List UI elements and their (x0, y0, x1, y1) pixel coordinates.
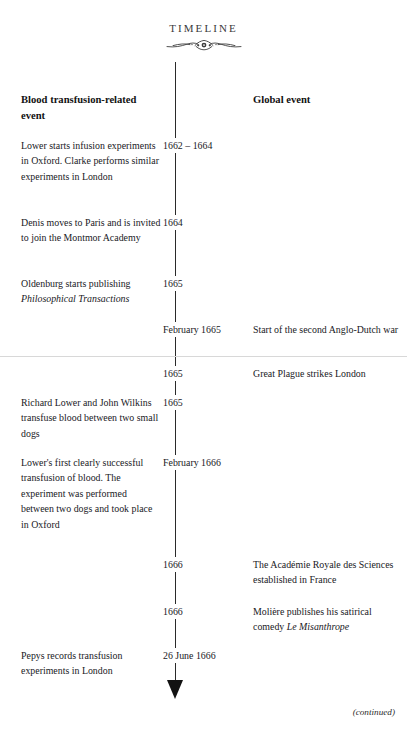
page-header: TIMELINE (0, 22, 407, 52)
timeline-date: February 1666 (163, 455, 251, 470)
flourish-ornament (0, 38, 407, 52)
timeline-date: 26 June 1666 (163, 648, 251, 663)
timeline-date: 1665 (163, 395, 251, 410)
timeline-arrow-icon (167, 680, 183, 699)
timeline-date: 1665 (163, 366, 251, 381)
timeline-event-right: Molière publishes his satirical comedy L… (253, 604, 403, 635)
timeline-event-right: Great Plague strikes London (253, 366, 403, 381)
timeline-event-left: Lower's first clearly successful transfu… (21, 455, 161, 532)
timeline-event-left: Denis moves to Paris and is invited to j… (21, 215, 161, 246)
column-header-global-event: Global event (253, 92, 398, 108)
timeline-event-left: Oldenburg starts publishing Philosophica… (21, 276, 161, 307)
timeline-event-left: Richard Lower and John Wilkins transfuse… (21, 395, 161, 441)
column-header-blood-transfusion: Blood transfusion-related event (21, 92, 161, 123)
timeline-date: 1664 (163, 215, 251, 230)
timeline-date: 1662 – 1664 (163, 138, 251, 153)
timeline-event-left: Pepys records transfusion experiments in… (21, 648, 161, 679)
section-divider (0, 356, 407, 357)
timeline-event-left: Lower starts infusion experiments in Oxf… (21, 138, 161, 184)
timeline-date: 1666 (163, 557, 251, 572)
timeline-date: 1666 (163, 604, 251, 619)
continued-note: (continued) (353, 707, 395, 717)
timeline-date: February 1665 (163, 322, 251, 337)
timeline-date: 1665 (163, 276, 251, 291)
timeline-event-right: Start of the second Anglo-Dutch war (253, 322, 403, 337)
page-title: TIMELINE (0, 22, 407, 34)
timeline-event-right: The Académie Royale des Sciences establi… (253, 557, 403, 588)
